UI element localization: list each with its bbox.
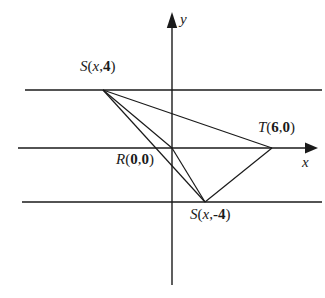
y-axis-arrowhead-icon: [167, 12, 177, 28]
point-label-r-origin-value: 0: [141, 151, 149, 167]
y-axis-label: y: [180, 12, 187, 27]
point-label-r-origin-close: ): [149, 151, 154, 167]
coordinate-geometry-figure: S(x,4) R(0,0) S(x,-4) T(6,0) y x: [0, 0, 325, 298]
point-label-r-origin-var: 0: [130, 151, 138, 167]
point-label-t-point-var: 6: [271, 119, 279, 135]
point-label-t-point-value: 0: [283, 119, 291, 135]
point-label-s-upper-close: ): [110, 58, 115, 74]
point-label-t-point-close: ): [290, 119, 295, 135]
segment-supper-to-r: [103, 90, 172, 148]
point-label-s-upper: S(x,4): [80, 59, 115, 74]
point-label-r-origin: R(0,0): [116, 152, 154, 167]
segment-slower-to-t: [205, 148, 272, 202]
point-label-r-origin-name: R: [116, 151, 125, 167]
segment-r-to-slower: [172, 148, 205, 202]
point-label-s-upper-name: S: [80, 58, 88, 74]
segment-supper-to-slower: [103, 90, 205, 202]
point-label-s-lower-name: S: [190, 206, 198, 222]
point-label-s-lower: S(x,-4): [190, 207, 230, 222]
point-label-s-lower-close: ): [225, 206, 230, 222]
figure-canvas: [0, 0, 325, 298]
point-label-s-lower-value: -4: [213, 206, 226, 222]
x-axis-arrowhead-icon: [305, 143, 318, 154]
point-label-t-point: T(6,0): [258, 120, 295, 135]
x-axis-label: x: [302, 155, 309, 170]
segment-supper-to-t: [103, 90, 272, 148]
